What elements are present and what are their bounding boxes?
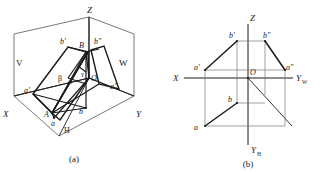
dot-B xyxy=(85,51,87,53)
dot-A xyxy=(51,112,53,114)
segment-a-b xyxy=(205,103,237,126)
mitre-line-45 xyxy=(248,78,292,126)
angle-label-gamma: γ xyxy=(80,70,84,78)
dot-O-b xyxy=(247,77,249,79)
point-label-b-front: b' xyxy=(60,37,66,46)
segment-aprime-bprime xyxy=(205,41,237,70)
point-label-a-front-b: a' xyxy=(194,63,200,72)
figure-b-axes xyxy=(184,24,293,145)
projector-A-to-asecond xyxy=(52,84,99,113)
angle-label-alpha: α xyxy=(68,78,72,86)
axis-label-z: Z xyxy=(87,5,93,15)
dot-O xyxy=(88,77,90,79)
axis-label-yh-b: Y H xyxy=(251,145,261,157)
axis-label-yh-sub: H xyxy=(257,151,261,157)
segment-bsecond-asecond xyxy=(265,41,285,70)
dot-b xyxy=(85,107,87,109)
point-label-b-side-b: b″ xyxy=(263,31,271,40)
axis-label-x: X xyxy=(2,109,9,119)
point-label-b-front-b: b' xyxy=(229,31,235,40)
axis-label-x-b: X xyxy=(172,73,179,83)
origin-label-o: O xyxy=(91,74,97,83)
point-label-a-top: a xyxy=(51,119,55,128)
dot-aprime xyxy=(204,69,206,71)
point-label-b-top-b: b xyxy=(228,95,232,104)
point-label-a-side: a″ xyxy=(110,82,118,91)
figure-a-group: V W H Z X Y O A B a' b' a″ b″ a b β α γ … xyxy=(2,5,142,164)
descriptive-geometry-figure: V W H Z X Y O A B a' b' a″ b″ a b β α γ … xyxy=(0,0,320,172)
plane-label-w: W xyxy=(119,58,128,68)
dot-b-top xyxy=(236,102,238,104)
axis-label-yw-sub: W xyxy=(302,79,308,85)
point-label-a-top-b: a xyxy=(194,123,198,132)
angle-label-beta: β xyxy=(58,74,62,83)
point-label-b-side: b″ xyxy=(94,37,102,46)
plane-v-outline xyxy=(14,17,89,96)
axis-label-y: Y xyxy=(136,109,142,119)
point-label-b-top: b xyxy=(79,107,83,116)
axis-label-z-b: Z xyxy=(250,13,256,23)
figure-b-caption: (b) xyxy=(243,159,254,169)
dot-bsecond xyxy=(264,40,266,42)
dot-a-top xyxy=(204,125,206,127)
origin-label-o-b: O xyxy=(250,68,256,77)
dot-bprime xyxy=(236,40,238,42)
point-label-B: B xyxy=(79,41,84,50)
figure-a-caption: (a) xyxy=(69,154,79,164)
axis-label-yw-b: Y W xyxy=(296,73,308,85)
point-label-a-side-b: a″ xyxy=(286,63,294,72)
plane-label-v: V xyxy=(16,58,23,68)
plane-label-h: H xyxy=(64,126,70,135)
figure-b-group: Z X Y W Y H O a' b' a″ b″ a b (b) xyxy=(172,13,308,169)
figure-b-projections xyxy=(205,41,285,126)
point-label-a-front: a' xyxy=(24,86,30,95)
point-label-A: A xyxy=(43,110,49,119)
